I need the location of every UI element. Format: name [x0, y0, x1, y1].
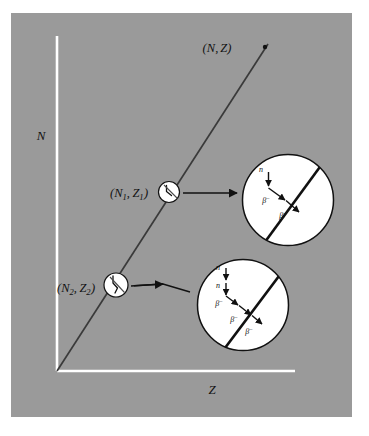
svg-text:(N,Z): (N,Z) [203, 41, 232, 55]
node-1-comma: , [127, 186, 130, 200]
node-1-z-sub: 1 [139, 192, 143, 202]
nuclide-chart-figure: N Z (N,Z) (N1,Z1) [0, 0, 369, 436]
node-2-paren-close: ) [90, 281, 95, 295]
inset-2-neutron-label-2: n [216, 281, 220, 290]
x-axis-label: Z [208, 382, 216, 397]
endpoint-paren-close: ) [226, 41, 231, 55]
inset-2-circle [198, 260, 289, 351]
stability-line-endpoint-label: (N,Z) [203, 41, 232, 55]
inset-2-neutron-label-1: n [216, 263, 220, 272]
inset-1-group: n β− β− [243, 155, 334, 247]
y-axis-label: N [36, 128, 47, 143]
figure-root: N Z (N,Z) (N1,Z1) [0, 0, 369, 436]
node-1-marker-circle[interactable] [159, 182, 180, 203]
node-2-comma: , [74, 281, 77, 295]
stability-line-endpoint-dot [263, 45, 267, 49]
inset-2-group: n n β− β− β− [198, 260, 289, 353]
inset-1-neutron-label-1: n [259, 165, 263, 174]
node-1-paren-close: ) [143, 186, 148, 200]
node-2-marker-circle[interactable] [104, 273, 128, 297]
endpoint-comma: , [215, 41, 218, 55]
